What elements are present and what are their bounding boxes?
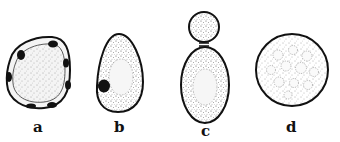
- label-b: b: [114, 120, 125, 135]
- label-c: c: [201, 124, 210, 139]
- cell-c: [181, 12, 229, 123]
- cell-a: [6, 37, 71, 109]
- cell-b: [97, 34, 143, 112]
- label-a: a: [33, 120, 43, 135]
- label-d: d: [286, 120, 297, 135]
- yeast-cells-figure: a b c d: [0, 0, 340, 142]
- cell-d: [256, 34, 328, 106]
